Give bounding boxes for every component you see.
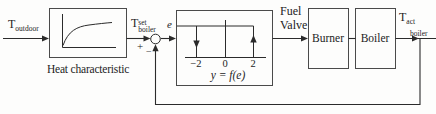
heat-characteristic-caption: Heat characteristic	[47, 64, 129, 76]
fuel-valve-line1: Fuel	[280, 5, 307, 19]
error-signal-label: e	[167, 19, 172, 30]
input-arrowhead-icon	[42, 35, 49, 41]
relay-tick-2: 2	[250, 59, 255, 70]
relay-up-arrowhead-icon	[250, 35, 256, 43]
heat-characteristic-block	[50, 9, 127, 58]
setpoint-arrowhead-icon	[144, 35, 151, 41]
fuel-valve-arrowhead-icon	[301, 35, 308, 41]
t-act-boiler-subscript2: boiler	[410, 28, 428, 39]
t-set-boiler-subscript: boiler	[138, 26, 156, 34]
t-set-boiler-base: T	[131, 16, 138, 30]
t-act-boiler-subscript: act	[406, 17, 415, 26]
heat-curve-axes	[63, 14, 117, 48]
sum-plus-sign: +	[137, 41, 143, 52]
feedback-line	[156, 39, 421, 105]
burner-label: Burner	[312, 33, 344, 45]
relay-tick-minus2: −2	[190, 59, 201, 70]
boiler-label: Boiler	[361, 33, 390, 45]
relay-tick-0: 0	[222, 59, 227, 70]
heat-curve-graph	[63, 14, 117, 48]
feedback-arrowhead-icon	[152, 44, 158, 51]
block-diagram-boiler-control: Toutdoor Heat characteristic Tsetboiler …	[0, 0, 436, 114]
summing-junction	[151, 34, 161, 44]
t-act-boiler-label: Tact boiler	[399, 12, 428, 39]
relay-down-arrowhead-icon	[193, 41, 199, 49]
heat-curve	[63, 23, 112, 46]
t-outdoor-label: Toutdoor	[8, 18, 39, 33]
t-set-boiler-label: Tsetboiler	[131, 17, 156, 34]
fuel-valve-line2: Valve	[280, 19, 307, 33]
relay-function-label: y = f(e)	[211, 70, 246, 82]
diagram-geometry	[0, 0, 436, 114]
sum-minus-sign: −	[146, 47, 152, 57]
t-outdoor-subscript: outdoor	[15, 24, 38, 33]
error-arrowhead-icon	[169, 35, 176, 41]
fuel-valve-label: Fuel Valve	[280, 5, 307, 32]
